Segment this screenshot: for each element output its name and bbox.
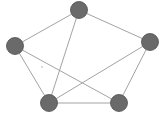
- edges-layer: [15, 10, 150, 103]
- stray-speck: [41, 66, 42, 67]
- node-top: [71, 2, 88, 19]
- node-left: [7, 38, 24, 55]
- nodes-layer: [7, 2, 159, 112]
- edge-left-bottom-left: [15, 46, 49, 103]
- edge-left-bottom-right: [15, 46, 119, 103]
- edge-top-right: [79, 10, 150, 42]
- node-right: [142, 34, 159, 51]
- graph-diagram: [0, 0, 161, 114]
- node-bottom-left: [41, 95, 58, 112]
- node-bottom-right: [111, 95, 128, 112]
